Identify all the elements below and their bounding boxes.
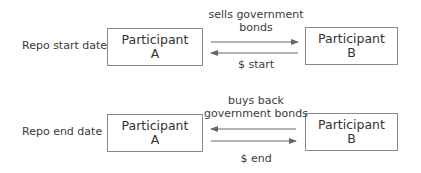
arrows-layer [0, 0, 421, 173]
